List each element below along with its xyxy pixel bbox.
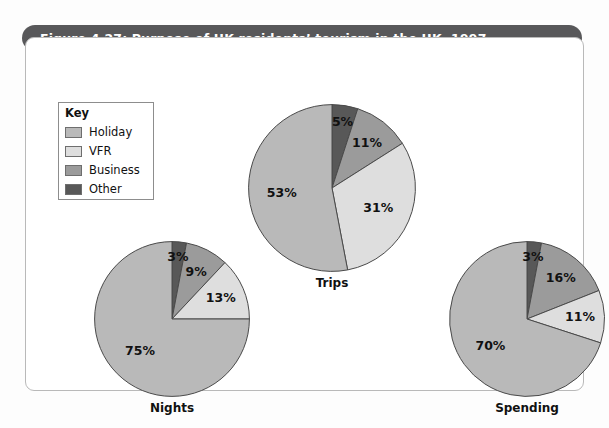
pie-slice-label: 31%	[363, 200, 393, 215]
pie-chart-caption: Spending	[449, 401, 605, 415]
pie-slice-label: 16%	[546, 270, 576, 285]
pie-graphic: 5%11%31%53%	[248, 104, 416, 272]
pie-chart-caption: Trips	[248, 276, 416, 290]
legend-item-business: Business	[65, 161, 153, 179]
pie-slice-label: 53%	[267, 185, 297, 200]
pie-slice-label: 11%	[565, 309, 595, 324]
legend-item-holiday: Holiday	[65, 123, 153, 141]
legend-title: Key	[65, 107, 153, 120]
pie-slice-label: 9%	[185, 264, 207, 279]
pie-chart-caption: Nights	[94, 401, 250, 415]
pie-graphic: 3%9%13%75%	[94, 241, 250, 397]
pie-slice-label: 3%	[522, 249, 544, 264]
pie-slice-label: 5%	[332, 114, 354, 129]
pie-chart-spending: 3%16%11%70%Spending	[449, 241, 605, 415]
legend-swatch-icon	[65, 146, 82, 157]
legend-item-label: Other	[89, 183, 122, 196]
figure-frame: Key HolidayVFRBusinessOther 5%11%31%53%T…	[25, 37, 584, 391]
pie-slice-label: 3%	[167, 249, 189, 264]
legend-item-vfr: VFR	[65, 142, 153, 160]
legend-items: HolidayVFRBusinessOther	[65, 123, 153, 198]
pie-slice-label: 70%	[475, 338, 505, 353]
pie-chart-nights: 3%9%13%75%Nights	[94, 241, 250, 415]
legend-swatch-icon	[65, 165, 82, 176]
chart-legend: Key HolidayVFRBusinessOther	[58, 102, 154, 200]
legend-item-label: VFR	[89, 145, 111, 158]
pie-slice-label: 75%	[125, 343, 155, 358]
pie-slice-label: 13%	[206, 290, 236, 305]
legend-item-label: Holiday	[89, 126, 132, 139]
pie-graphic: 3%16%11%70%	[449, 241, 605, 397]
legend-swatch-icon	[65, 127, 82, 138]
legend-item-other: Other	[65, 180, 153, 198]
pie-chart-trips: 5%11%31%53%Trips	[248, 104, 416, 290]
legend-swatch-icon	[65, 184, 82, 195]
pie-slice-label: 11%	[352, 135, 382, 150]
legend-item-label: Business	[89, 164, 140, 177]
